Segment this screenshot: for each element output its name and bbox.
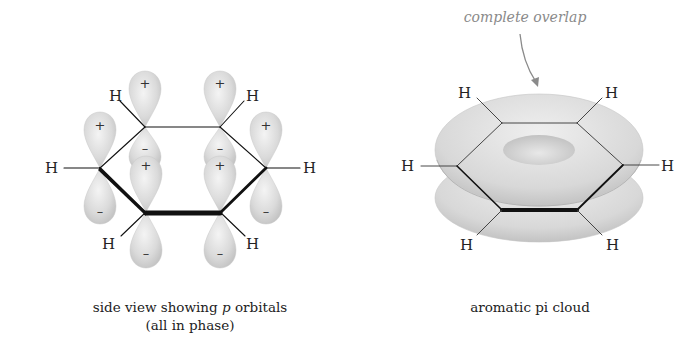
left-caption-line1: side view showing p orbitals — [60, 298, 320, 316]
plus-sign: + — [261, 118, 272, 133]
plus-sign: + — [95, 118, 106, 133]
plus-sign: + — [215, 76, 226, 91]
hydrogen-label: H — [45, 159, 58, 177]
minus-sign: – — [142, 141, 149, 156]
complete-overlap-annotation: complete overlap — [464, 9, 587, 25]
p-orbital-side-view: + + + + – – + + – – – – H H H H H H — [45, 71, 316, 268]
hydrogen-label: H — [246, 87, 259, 105]
minus-sign: – — [217, 141, 224, 156]
hydrogen-label: H — [661, 157, 674, 175]
hydrogen-label: H — [102, 235, 115, 253]
minus-sign: – — [217, 246, 224, 261]
left-caption-line2: (all in phase) — [60, 316, 320, 334]
hydrogen-label: H — [401, 157, 414, 175]
right-caption: aromatic pi cloud — [430, 298, 630, 316]
aromatic-pi-cloud: H H H H H H complete overlap — [401, 9, 674, 254]
left-caption: side view showing p orbitals (all in pha… — [60, 298, 320, 334]
plus-sign: + — [140, 76, 151, 91]
hydrogen-label: H — [303, 159, 316, 177]
arrow-head-icon — [531, 77, 539, 87]
hydrogen-labels: H H H H H H — [45, 87, 316, 253]
hydrogen-label: H — [458, 84, 471, 102]
hydrogen-label: H — [246, 235, 259, 253]
annotation-arrow-icon — [520, 34, 536, 82]
plus-sign: + — [141, 158, 152, 173]
hydrogen-label: H — [605, 84, 618, 102]
caption-text: side view showing — [93, 299, 222, 315]
caption-italic-p: p — [222, 299, 231, 315]
caption-text: orbitals — [231, 299, 288, 315]
hydrogen-label: H — [109, 87, 122, 105]
minus-sign: – — [263, 204, 270, 219]
torus-hole — [503, 135, 575, 165]
minus-sign: – — [143, 246, 150, 261]
hydrogen-label: H — [460, 236, 473, 254]
hydrogen-label: H — [606, 236, 619, 254]
minus-sign: – — [97, 204, 104, 219]
plus-sign: + — [215, 158, 226, 173]
